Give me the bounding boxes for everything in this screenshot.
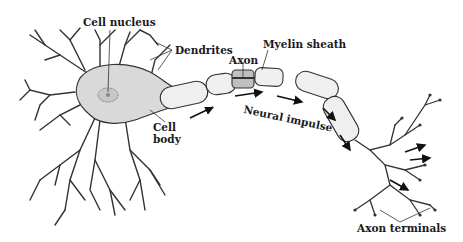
- label-cell-nucleus: Cell nucleus: [83, 16, 156, 28]
- label-axon: Axon: [229, 54, 258, 66]
- dendrites: [20, 28, 170, 225]
- leader-myelin: [262, 50, 268, 70]
- leader-terminals-1: [380, 210, 400, 222]
- label-cell-body-line2: body: [153, 133, 181, 145]
- label-dendrites: Dendrites: [175, 44, 233, 56]
- label-axon-terminals: Axon terminals: [357, 222, 446, 234]
- neuron-illustration: [0, 0, 463, 242]
- neural-impulse-arrows: [190, 92, 430, 190]
- label-myelin-sheath: Myelin sheath: [263, 38, 346, 50]
- label-cell-body-line1: Cell: [153, 121, 176, 133]
- leader-terminals-2: [400, 208, 430, 222]
- neuron-diagram: Cell nucleus Dendrites Myelin sheath Axo…: [0, 0, 463, 242]
- axon-terminals: [355, 95, 440, 215]
